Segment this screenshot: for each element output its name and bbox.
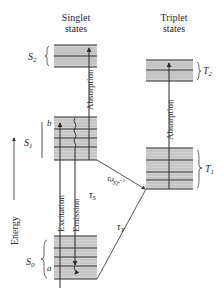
jablonski-diagram: S2 S1 b <box>0 0 223 288</box>
emission-label: Emission <box>71 198 81 232</box>
singlet-absorption-label: Absorption <box>85 69 95 110</box>
energy-axis-label: Energy <box>9 216 20 245</box>
t1-brace <box>197 150 202 188</box>
triplet-absorption-label: Absorption <box>165 99 175 140</box>
s0-label: S0 <box>26 256 35 269</box>
tau-s-label: τS <box>89 189 97 202</box>
t2-label: T2 <box>203 65 213 78</box>
s2-brace <box>45 46 49 66</box>
omega-st-label: ωST-1 <box>106 172 126 188</box>
level-b-label: b <box>47 118 52 128</box>
isc-arrow <box>97 160 145 189</box>
phosphorescence-line <box>97 189 146 279</box>
level-a-label: a <box>47 263 52 273</box>
t1-label: T1 <box>205 163 214 176</box>
excitation-label: Excitation <box>56 195 66 232</box>
s2-label: S2 <box>28 51 37 64</box>
t2-brace <box>197 62 201 80</box>
s2-band <box>54 45 97 67</box>
s1-label: S1 <box>24 137 33 150</box>
tau-t-label: τT <box>117 221 126 234</box>
